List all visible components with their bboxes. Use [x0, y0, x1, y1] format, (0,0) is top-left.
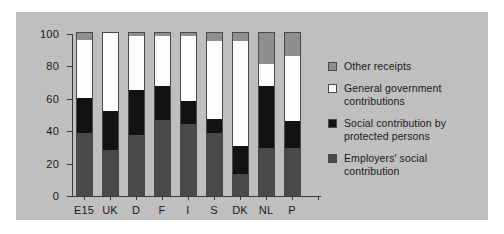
- bar-uk[interactable]: [102, 32, 119, 196]
- y-tick-label: 0: [53, 190, 59, 202]
- bar-segment-employers: [207, 133, 222, 195]
- x-label-f: F: [159, 204, 166, 216]
- y-tick-label: 20: [46, 158, 59, 170]
- bar-segment-protected: [155, 86, 170, 120]
- legend-swatch-other: [328, 62, 337, 71]
- x-tick: [214, 196, 215, 200]
- legend-item[interactable]: Employers' social contribution: [328, 152, 478, 178]
- bar-e15[interactable]: [76, 32, 93, 196]
- bar-segment-employers: [103, 150, 118, 195]
- x-label-e15: E15: [74, 204, 94, 216]
- legend-label: Social contribution by protected persons: [344, 117, 478, 143]
- bar-segment-other: [233, 33, 248, 41]
- bar-segment-government: [77, 40, 92, 98]
- bar-segment-protected: [285, 121, 300, 149]
- bar-segment-government: [129, 36, 144, 89]
- legend-item[interactable]: Social contribution by protected persons: [328, 117, 478, 143]
- x-tick: [240, 196, 241, 200]
- y-tick: 80: [67, 66, 72, 67]
- bar-segment-protected: [103, 111, 118, 150]
- bar-p[interactable]: [284, 32, 301, 196]
- bar-f[interactable]: [154, 32, 171, 196]
- x-tick: [292, 196, 293, 200]
- bar-segment-other: [259, 33, 274, 64]
- x-tick: [84, 196, 85, 200]
- legend-item[interactable]: Other receipts: [328, 60, 478, 73]
- bar-segment-government: [207, 41, 222, 119]
- x-label-dk: DK: [232, 204, 248, 216]
- y-tick-label: 40: [46, 125, 59, 137]
- y-tick: 60: [67, 99, 72, 100]
- legend-label: Other receipts: [344, 60, 411, 73]
- x-tick: [162, 196, 163, 200]
- legend-item[interactable]: General government contributions: [328, 82, 478, 108]
- chart-legend: Other receiptsGeneral government contrib…: [328, 60, 478, 187]
- legend-swatch-protected: [328, 119, 337, 128]
- x-label-i: I: [186, 204, 189, 216]
- y-tick-label: 60: [46, 93, 59, 105]
- bar-segment-government: [233, 41, 248, 146]
- bar-segment-employers: [155, 120, 170, 195]
- legend-label: Employers' social contribution: [344, 152, 478, 178]
- chart-figure: 020406080100 E15UKDFISDKNLP Other receip…: [16, 12, 488, 220]
- bar-segment-protected: [233, 146, 248, 174]
- y-tick-label: 80: [46, 60, 59, 72]
- bar-segment-protected: [207, 119, 222, 134]
- bar-segment-government: [259, 64, 274, 87]
- bar-s[interactable]: [206, 32, 223, 196]
- bar-segment-employers: [77, 133, 92, 195]
- bar-segment-employers: [181, 124, 196, 195]
- bar-segment-employers: [285, 148, 300, 195]
- bar-segment-other: [285, 33, 300, 56]
- y-tick-label: 100: [40, 28, 59, 40]
- x-tick: [318, 196, 319, 200]
- bar-nl[interactable]: [258, 32, 275, 196]
- y-tick: 40: [67, 131, 72, 132]
- x-label-uk: UK: [102, 204, 118, 216]
- x-label-d: D: [132, 204, 140, 216]
- bar-segment-protected: [77, 98, 92, 134]
- x-tick: [110, 196, 111, 200]
- x-tick: [136, 196, 137, 200]
- x-tick: [266, 196, 267, 200]
- legend-label: General government contributions: [344, 82, 478, 108]
- x-label-nl: NL: [259, 204, 273, 216]
- legend-swatch-employers: [328, 154, 337, 163]
- bar-d[interactable]: [128, 32, 145, 196]
- bar-segment-protected: [181, 101, 196, 124]
- x-tick: [188, 196, 189, 200]
- y-tick: 0: [67, 196, 72, 197]
- bar-segment-other: [207, 33, 222, 41]
- x-label-p: P: [288, 204, 296, 216]
- bar-segment-government: [155, 36, 170, 86]
- bar-segment-employers: [129, 135, 144, 195]
- bar-segment-employers: [259, 148, 274, 195]
- y-tick: 20: [67, 164, 72, 165]
- bar-segment-government: [103, 33, 118, 111]
- x-label-s: S: [210, 204, 218, 216]
- y-tick: 100: [67, 34, 72, 35]
- bar-segment-employers: [233, 174, 248, 195]
- bar-segment-government: [181, 36, 196, 101]
- bar-dk[interactable]: [232, 32, 249, 196]
- y-axis-line: [72, 34, 73, 197]
- plot-area: 020406080100 E15UKDFISDKNLP: [72, 34, 312, 196]
- legend-swatch-government: [328, 84, 337, 93]
- bar-segment-protected: [129, 90, 144, 135]
- bar-segment-government: [285, 56, 300, 121]
- bar-segment-protected: [259, 86, 274, 148]
- bar-i[interactable]: [180, 32, 197, 196]
